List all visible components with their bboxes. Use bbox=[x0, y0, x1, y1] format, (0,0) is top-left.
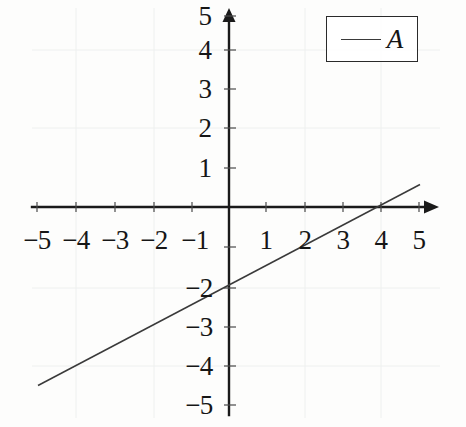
x-tick-label-3: 3 bbox=[337, 227, 350, 254]
x-tick-label-2: 2 bbox=[299, 227, 312, 254]
y-tick-label-2: 2 bbox=[199, 115, 212, 142]
x-tick-label-5: 5 bbox=[413, 227, 426, 254]
y-tick-label--3: −3 bbox=[185, 314, 213, 341]
x-tick-label--3: −3 bbox=[101, 227, 129, 254]
y-axis-arrowhead bbox=[223, 8, 236, 22]
legend-entry-a: A bbox=[327, 17, 417, 61]
legend-label-a: A bbox=[387, 26, 404, 53]
x-tick-label--5: −5 bbox=[23, 227, 51, 254]
x-tick-label-4: 4 bbox=[375, 227, 388, 254]
y-tick-label-5: 5 bbox=[199, 3, 212, 30]
x-axis-arrowhead bbox=[424, 201, 439, 214]
plot-canvas bbox=[0, 0, 466, 427]
y-tick-label--4: −4 bbox=[185, 353, 213, 380]
y-tick-label--5: −5 bbox=[185, 392, 213, 419]
x-tick-label--1: −1 bbox=[181, 227, 209, 254]
legend-line-swatch-icon bbox=[341, 39, 381, 40]
graph-figure: −5 −4 −3 −2 −1 1 2 3 4 5 5 4 3 2 1 −2 −3… bbox=[0, 0, 466, 427]
y-tick-label--2: −2 bbox=[185, 275, 213, 302]
x-tick-label-1: 1 bbox=[260, 227, 273, 254]
legend: A bbox=[326, 16, 418, 62]
y-tick-label-4: 4 bbox=[199, 37, 212, 64]
y-tick-label-3: 3 bbox=[199, 76, 212, 103]
y-tick-label-1: 1 bbox=[199, 155, 212, 182]
x-tick-label--4: −4 bbox=[62, 227, 90, 254]
x-tick-label--2: −2 bbox=[140, 227, 168, 254]
